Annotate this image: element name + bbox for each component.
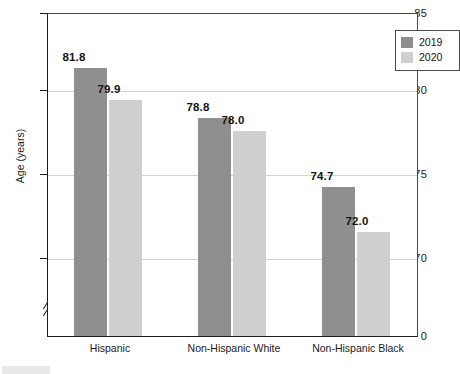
bar-nhwhite-2019 xyxy=(198,118,231,336)
bar-value-hispanic-2019: 81.8 xyxy=(53,51,95,63)
x-tick-label-hispanic: Hispanic xyxy=(54,342,166,354)
bar-value-nhwhite-2019: 78.8 xyxy=(177,101,219,113)
bar-hispanic-2019 xyxy=(74,68,107,336)
bar-value-nhblack-2019: 74.7 xyxy=(301,170,343,182)
x-tick-label-non-hispanic-black: Non-Hispanic Black xyxy=(302,342,414,354)
bar-nhblack-2020 xyxy=(357,232,390,336)
y-tick-mark-70 xyxy=(40,258,47,259)
plot-area: 2019 2020 xyxy=(47,13,418,337)
legend-item-2020: 2020 xyxy=(401,50,454,65)
legend: 2019 2020 xyxy=(395,30,460,71)
y-tick-mark-85 xyxy=(40,13,47,14)
bar-hispanic-2020 xyxy=(109,100,142,336)
legend-item-2019: 2019 xyxy=(401,35,454,50)
y-tick-mark-80 xyxy=(40,90,47,91)
bar-value-nhblack-2020: 72.0 xyxy=(336,215,378,227)
legend-label-2019: 2019 xyxy=(419,37,442,48)
bar-value-hispanic-2020: 79.9 xyxy=(88,83,130,95)
bar-value-nhwhite-2020: 78.0 xyxy=(212,114,254,126)
bar-nhwhite-2020 xyxy=(233,131,266,336)
y-axis-title: Age (years) xyxy=(14,108,26,204)
legend-swatch-2019-icon xyxy=(401,37,413,48)
page-bleed-artifact xyxy=(0,366,427,374)
y-tick-mark-75 xyxy=(40,174,47,175)
x-tick-label-non-hispanic-white: Non-Hispanic White xyxy=(178,342,290,354)
bar-nhblack-2019 xyxy=(322,187,355,336)
legend-swatch-2020-icon xyxy=(401,52,413,63)
legend-label-2020: 2020 xyxy=(419,52,442,63)
